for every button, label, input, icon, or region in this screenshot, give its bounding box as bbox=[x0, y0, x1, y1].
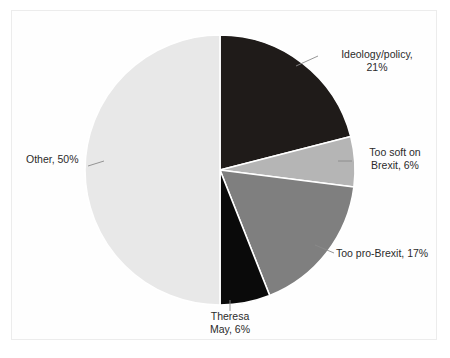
pie-label-theresa-may: Theresa May, 6% bbox=[190, 310, 270, 335]
pie-label-too-pro-brexit: Too pro-Brexit, 17% bbox=[336, 247, 448, 260]
pie-label-ideology-policy: Ideology/policy, 21% bbox=[322, 48, 432, 73]
pie-slice-group bbox=[85, 35, 355, 305]
pie-label-too-soft-on-brexit: Too soft on Brexit, 6% bbox=[352, 146, 438, 171]
pie-chart-figure: Ideology/policy, 21% Too soft on Brexit,… bbox=[0, 0, 450, 358]
pie-label-other: Other, 50% bbox=[26, 153, 104, 166]
pie-slice[interactable] bbox=[85, 35, 220, 305]
